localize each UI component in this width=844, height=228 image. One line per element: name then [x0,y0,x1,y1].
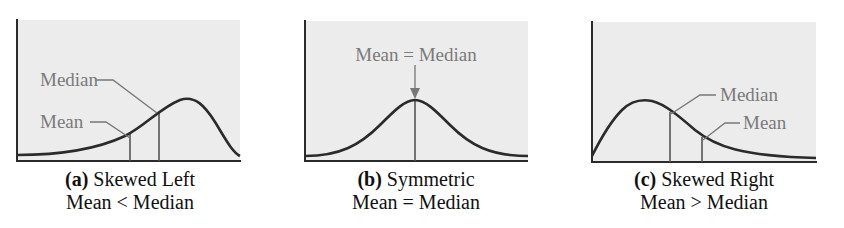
panel-b-title: Symmetric [387,168,475,190]
panel-b-caption: (b) Symmetric Mean = Median [286,168,546,214]
panel-a-title: Skewed Left [93,168,195,190]
panel-a-letter: (a) [65,168,88,190]
panel-c-caption: (c) Skewed Right Mean > Median [574,168,834,214]
panel-a-background [17,20,240,161]
panel-skewed-left: Median Mean [16,19,241,162]
panel-c-median-label: Median [720,84,779,105]
panel-a-median-label: Median [40,69,99,90]
panel-a-relation: Mean < Median [0,191,260,214]
panel-b-center-label: Mean = Median [355,44,477,65]
panel-c-relation: Mean > Median [574,191,834,214]
panel-c-letter: (c) [634,168,656,190]
panel-c-caption-line1: (c) Skewed Right [574,168,834,191]
panel-c-title: Skewed Right [661,168,774,190]
panel-b-relation: Mean = Median [286,191,546,214]
panel-a-mean-label: Mean [40,111,84,132]
panel-skewed-right: Median Mean [591,21,817,163]
panel-symmetric: Mean = Median [304,20,528,162]
panel-a-caption: (a) Skewed Left Mean < Median [0,168,260,214]
panel-c-mean-label: Mean [743,112,787,133]
panel-b-caption-line1: (b) Symmetric [286,168,546,191]
panel-c-background [592,22,816,162]
panel-b-letter: (b) [357,168,381,190]
panel-a-caption-line1: (a) Skewed Left [0,168,260,191]
